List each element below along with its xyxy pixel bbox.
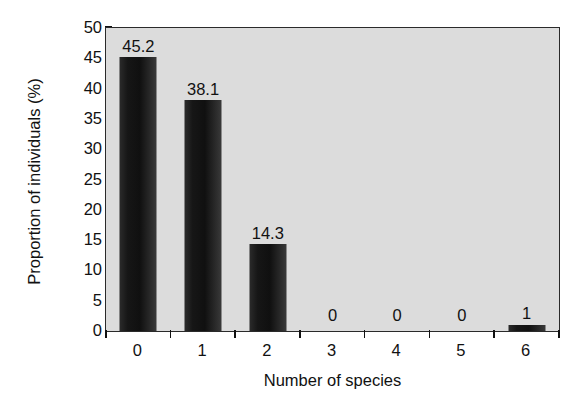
x-tick-mark [105, 330, 107, 338]
bar-slot: 0 [430, 28, 495, 331]
y-tick-label: 45 [58, 49, 102, 66]
y-tick-label: 35 [58, 110, 102, 127]
bar [120, 57, 157, 331]
y-axis-ticks: 05101520253035404550 [58, 0, 102, 412]
bar-value-label: 0 [393, 307, 402, 324]
y-tick-label: 50 [58, 19, 102, 36]
x-tick-mark [558, 330, 560, 338]
bar-slot: 14.3 [235, 28, 300, 331]
y-tick-label: 40 [58, 79, 102, 96]
bar-chart-figure: Proportion of individuals (%) 0510152025… [0, 0, 583, 412]
x-tick-label: 0 [117, 342, 157, 359]
bar-slot: 0 [300, 28, 365, 331]
y-tick-label: 25 [58, 170, 102, 187]
x-tick-label: 1 [182, 342, 222, 359]
bar-slot: 0 [365, 28, 430, 331]
x-tick-mark [170, 330, 172, 338]
x-tick-mark [493, 330, 495, 338]
bar [185, 100, 222, 331]
x-tick-mark [429, 330, 431, 338]
bar [249, 244, 286, 331]
x-tick-label: 2 [247, 342, 287, 359]
y-tick-label: 30 [58, 140, 102, 157]
x-tick-label: 5 [441, 342, 481, 359]
x-tick-mark [364, 330, 366, 338]
bar-slot: 1 [494, 28, 559, 331]
y-tick-label: 10 [58, 261, 102, 278]
x-tick-label: 6 [506, 342, 546, 359]
bar-value-label: 38.1 [187, 81, 219, 98]
y-tick-label: 5 [58, 291, 102, 308]
y-tick-label: 0 [58, 322, 102, 339]
x-axis-title: Number of species [105, 371, 560, 390]
bar-slot: 45.2 [106, 28, 171, 331]
bar-value-label: 45.2 [122, 38, 154, 55]
x-tick-mark [234, 330, 236, 338]
bar-value-label: 14.3 [252, 225, 284, 242]
x-tick-mark [299, 330, 301, 338]
y-axis-title: Proportion of individuals (%) [25, 22, 44, 342]
bar-series: 45.238.114.30001 [106, 28, 559, 331]
bar-value-label: 0 [457, 307, 466, 324]
x-tick-label: 3 [312, 342, 352, 359]
y-tick-label: 15 [58, 231, 102, 248]
plot-area: 45.238.114.30001 [105, 27, 560, 332]
bar-value-label: 0 [328, 307, 337, 324]
x-axis-ticks: 0123456 [105, 330, 560, 376]
bar-value-label: 1 [522, 305, 531, 322]
x-tick-label: 4 [376, 342, 416, 359]
bar-slot: 38.1 [171, 28, 236, 331]
y-tick-label: 20 [58, 201, 102, 218]
